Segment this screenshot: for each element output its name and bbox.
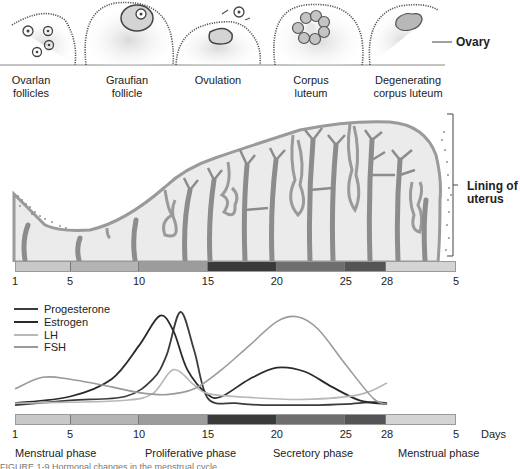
figure-caption-cropped: FIGURE 1-9 Hormonal changes in the menst… [0, 462, 520, 469]
days-axis-label: Days [481, 428, 506, 440]
day-bar-segment [345, 415, 386, 424]
day-bar-segment [16, 415, 71, 424]
phase-proliferative: Proliferative phase [145, 447, 236, 459]
day-tick-label: 15 [202, 428, 214, 440]
day-bar-segment [277, 415, 346, 424]
day-bar-segment [71, 415, 140, 424]
day-bar-segment [139, 415, 208, 424]
day-tick-label: 20 [271, 428, 283, 440]
day-bar-segment [386, 415, 455, 424]
day-tick-label: 1 [12, 428, 18, 440]
day-tick-label: 28 [381, 428, 393, 440]
phase-menstrual-1: Menstrual phase [15, 447, 96, 459]
day-bar-segment [208, 415, 277, 424]
day-tick-label: 5 [67, 428, 73, 440]
day-tick-label: 5 [453, 428, 459, 440]
day-tick-label: 25 [340, 428, 352, 440]
phase-menstrual-2: Menstrual phase [398, 447, 479, 459]
day-tick-label: 10 [133, 428, 145, 440]
phase-secretory: Secretory phase [273, 447, 353, 459]
hormone-chart [0, 0, 520, 469]
day-bar-bottom [15, 414, 456, 425]
